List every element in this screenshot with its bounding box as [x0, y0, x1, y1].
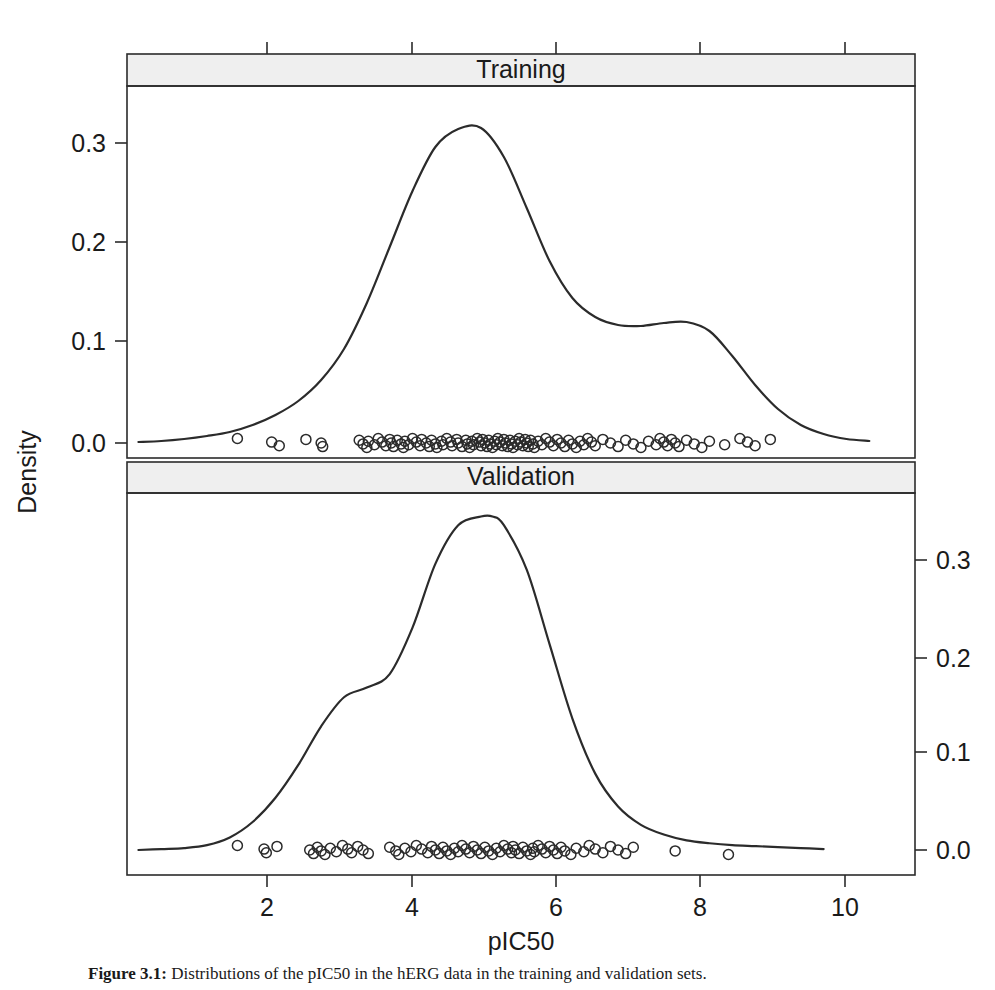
density-plot-svg: Training 0.3 0.2 0.1 0.0 [0, 0, 995, 990]
figure-caption-label: Figure 3.1: [88, 964, 167, 983]
rug-point [765, 434, 775, 444]
rug-point [723, 850, 733, 860]
training-rug-points [232, 434, 775, 453]
validation-y-ticks [915, 560, 927, 850]
strip-label-validation: Validation [467, 462, 575, 490]
rug-point [272, 841, 282, 851]
y-axis-title: Density [13, 430, 41, 514]
figure-caption: Figure 3.1: Distributions of the pIC50 i… [88, 962, 968, 990]
validation-y-tick-label-0.3: 0.3 [936, 546, 971, 574]
rug-point [301, 434, 311, 444]
x-tick-label-2: 2 [260, 893, 274, 921]
training-panel: Training 0.3 0.2 0.1 0.0 [71, 42, 915, 458]
training-density-curve [138, 125, 869, 442]
training-y-ticks [115, 143, 127, 443]
validation-y-tick-label-0.0: 0.0 [936, 836, 971, 864]
validation-density-curve [138, 515, 823, 850]
x-axis-title: pIC50 [488, 927, 555, 955]
validation-bottom-ticks [267, 875, 845, 887]
validation-y-tick-label-0.2: 0.2 [936, 644, 971, 672]
rug-point [670, 846, 680, 856]
figure-container: Training 0.3 0.2 0.1 0.0 [0, 0, 995, 990]
validation-plot-frame [127, 493, 915, 875]
x-tick-label-6: 6 [549, 893, 563, 921]
training-top-ticks [267, 42, 845, 54]
x-tick-label-8: 8 [693, 893, 707, 921]
rug-point [720, 440, 730, 450]
validation-panel: Validation 0.3 0.2 0.1 0.0 2 [127, 462, 971, 921]
x-tick-label-10: 10 [831, 893, 859, 921]
rug-point [704, 436, 714, 446]
validation-y-tick-label-0.1: 0.1 [936, 738, 971, 766]
training-y-tick-label-0.3: 0.3 [71, 129, 106, 157]
training-y-tick-label-0.1: 0.1 [71, 327, 106, 355]
training-y-tick-label-0.0: 0.0 [71, 429, 106, 457]
rug-point [232, 841, 242, 851]
strip-label-training: Training [476, 55, 565, 83]
rug-point [232, 434, 242, 444]
figure-caption-body: Distributions of the pIC50 in the hERG d… [171, 964, 706, 983]
validation-rug-points [232, 841, 733, 860]
training-plot-frame [127, 86, 915, 458]
rug-point [628, 842, 638, 852]
training-y-tick-label-0.2: 0.2 [71, 228, 106, 256]
x-tick-label-4: 4 [405, 893, 419, 921]
rug-point [318, 442, 328, 452]
